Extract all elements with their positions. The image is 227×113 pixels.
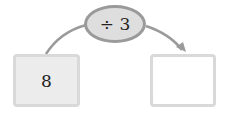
start-value-box: 8 bbox=[13, 54, 80, 107]
start-value: 8 bbox=[41, 71, 52, 91]
operation-oval: ÷ 3 bbox=[84, 5, 146, 43]
result-box[interactable] bbox=[150, 54, 216, 107]
operation-label: ÷ 3 bbox=[100, 14, 130, 34]
